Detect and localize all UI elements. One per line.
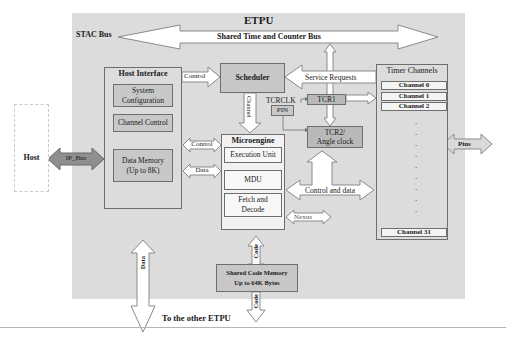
channel-control-label: Channel Control (114, 115, 172, 131)
service-requests-label: Service Requests (305, 73, 356, 82)
etpu-title: ETPU (244, 14, 273, 26)
stac-bus-label: STAC Bus (76, 30, 112, 39)
shared-code-memory-block: Shared Code Memory Up to 64K Bytes (216, 264, 298, 292)
host-box (14, 104, 49, 192)
mdu-block: MDU (224, 170, 282, 190)
pin-block: PIN (271, 105, 294, 116)
channel-ellipsis-dots: · · · · · · · · · (376, 118, 456, 217)
tcr2-line1: TCR2/ (308, 128, 362, 137)
nexus-label: Nexus (294, 213, 312, 221)
fetch-decode-block: Fetch and Decode (224, 193, 282, 217)
channel-31: Channel 31 (381, 228, 447, 237)
pins-label: Pins (458, 140, 471, 148)
control-microengine-label: Control (188, 140, 216, 148)
control-and-data-label: Control and data (305, 186, 355, 195)
tcrclk-to-tcr1-line (301, 99, 305, 103)
host-interface-title: Host Interface (104, 69, 182, 78)
code-upper-label: Code (252, 244, 259, 258)
data-memory-line1: Data Memory (114, 156, 172, 166)
data-bus-label: Data (139, 256, 146, 269)
pin-label: PIN (272, 106, 293, 115)
ip-bus-label: IP_Bus (60, 154, 92, 162)
tcr2-angle-clock-block: TCR2/ Angle clock (307, 126, 363, 148)
tcrclk-label: TCRCLK (266, 96, 296, 105)
shared-bus-label: Shared Time and Counter Bus (217, 32, 321, 41)
other-etpu-label: To the other ETPU (162, 313, 231, 323)
fetch-decode-line2: Decode (225, 205, 281, 215)
scheduler-block: Scheduler (220, 63, 285, 93)
channel-2: Channel 2 (381, 102, 447, 111)
channel-1: Channel 1 (381, 92, 447, 101)
host-label: Host (14, 153, 49, 162)
microengine-title: Microengine (221, 136, 285, 145)
system-configuration-line2: Configuration (114, 96, 172, 106)
channel-control-block: Channel Control (113, 114, 173, 132)
code-lower-label: Code (252, 294, 259, 308)
channel-0: Channel 0 (381, 81, 447, 90)
data-memory-block: Data Memory (Up to 8K) (113, 149, 173, 182)
data-memory-line2: (Up to 8K) (114, 166, 172, 176)
code-memory-line1: Shared Code Memory (217, 268, 297, 278)
scheduler-label: Scheduler (221, 64, 284, 92)
code-memory-line2: Up to 64K Bytes (217, 278, 297, 288)
system-configuration-line1: System (114, 86, 172, 96)
execution-unit-label: Execution Unit (225, 148, 281, 162)
data-down-arrow (131, 240, 155, 332)
footer-divider (0, 327, 506, 328)
data-microengine-label: Data (188, 166, 216, 174)
system-configuration-block: System Configuration (113, 84, 173, 107)
channel-label: Channel (246, 96, 253, 118)
mdu-label: MDU (225, 171, 281, 189)
tcr1-block: TCR1 (307, 94, 346, 105)
bus-to-tcr2-arrow (324, 44, 336, 126)
tcr1-to-channels-arrow (346, 92, 376, 104)
tcr1-label: TCR1 (308, 95, 345, 104)
fetch-decode-line1: Fetch and (225, 195, 281, 205)
tcrclk-to-tcr2-line (283, 114, 305, 130)
timer-channels-title: Timer Channels (376, 66, 448, 75)
tcr2-line2: Angle clock (308, 137, 362, 146)
control-scheduler-label: Control (184, 72, 205, 80)
execution-unit-block: Execution Unit (224, 147, 282, 163)
